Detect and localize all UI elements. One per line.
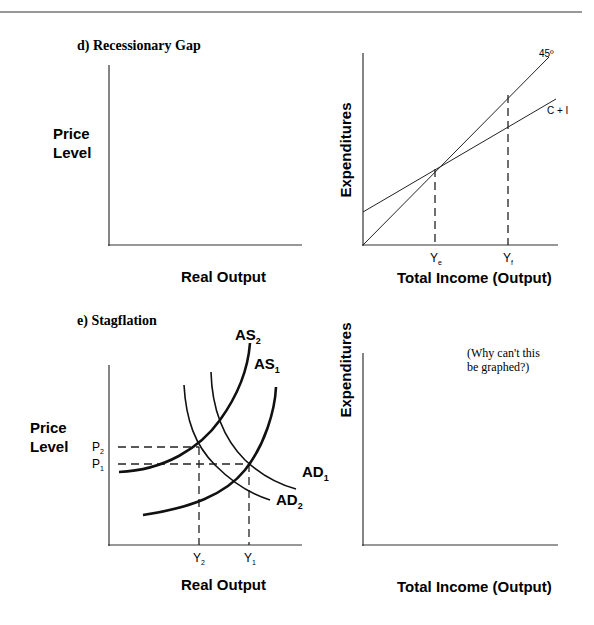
e-expenditures-graph: Expenditures (Why can't this be graphed?… xyxy=(337,322,558,595)
line-c-plus-i xyxy=(363,99,556,212)
y-axis-label-line2: Level xyxy=(53,144,91,161)
label-as1: AS1 xyxy=(254,355,280,375)
label-p1: P1 xyxy=(92,457,104,472)
as2-curve xyxy=(119,343,250,472)
label-c-plus-i: C + I xyxy=(547,105,568,116)
y-axis-label: Expenditures xyxy=(337,102,354,197)
worksheet-canvas: d) Recessionary Gap Price Level Real Out… xyxy=(0,0,594,625)
y-axis-label-line1: Price xyxy=(30,419,67,436)
label-45-degree: 45º xyxy=(539,48,554,59)
label-yf: Yf xyxy=(503,251,513,266)
e-stagflation-graph: AS2 AS1 AD1 AD2 P2 P1 Y2 Y1 Price Level … xyxy=(30,326,329,593)
section-d-title: d) Recessionary Gap xyxy=(77,38,201,54)
x-axis-label: Real Output xyxy=(181,576,266,593)
note-line1: (Why can't this xyxy=(467,346,540,360)
ad1-curve xyxy=(211,372,296,489)
label-ad1: AD1 xyxy=(302,463,329,483)
label-y2: Y2 xyxy=(193,551,205,566)
y-axis-label: Expenditures xyxy=(337,322,354,417)
label-y1: Y1 xyxy=(244,551,256,566)
label-ye: Ye xyxy=(430,251,442,266)
d-expenditures-graph: 45º C + I Ye Yf Total Income (Output) Ex… xyxy=(337,48,568,286)
label-as2: AS2 xyxy=(235,326,261,346)
note-line2: be graphed?) xyxy=(467,360,529,374)
d-price-level-graph: Price Level Real Output xyxy=(53,65,302,285)
label-ad2: AD2 xyxy=(276,491,303,511)
x-axis-label: Real Output xyxy=(181,268,266,285)
ad2-curve xyxy=(184,385,270,500)
section-e-title: e) Stagflation xyxy=(77,313,157,329)
as1-curve xyxy=(143,387,276,515)
y-axis-label-line2: Level xyxy=(30,438,68,455)
x-axis-label: Total Income (Output) xyxy=(397,269,552,286)
x-axis-label: Total Income (Output) xyxy=(397,578,552,595)
label-p2: P2 xyxy=(92,440,104,455)
y-axis-label-line1: Price xyxy=(53,125,90,142)
line-45-degree xyxy=(363,57,549,245)
